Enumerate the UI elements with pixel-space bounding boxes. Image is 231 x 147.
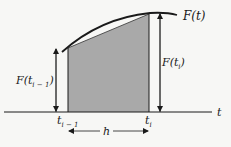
curve-label: F(t) xyxy=(182,9,206,23)
left-height-label: F(ti − 1) xyxy=(15,74,54,89)
tick-label-t-i: ti xyxy=(145,114,152,129)
axis-label-t: t xyxy=(217,106,222,119)
tick-label-t-i-minus-1: ti − 1 xyxy=(57,114,78,129)
trapezoid-diagram: F(t) F(ti − 1) F(ti) t ti − 1 ti h xyxy=(0,0,231,147)
right-height-label: F(ti) xyxy=(161,56,185,71)
shaded-trapezoid xyxy=(68,14,149,112)
width-label-h: h xyxy=(103,125,110,138)
